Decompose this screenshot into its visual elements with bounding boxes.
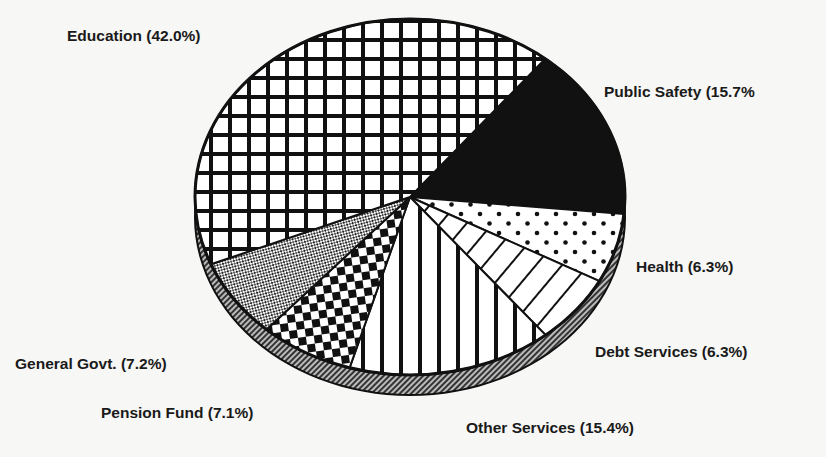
- label-pension-fund: Pension Fund (7.1%): [101, 404, 253, 422]
- label-general-govt: General Govt. (7.2%): [15, 355, 167, 373]
- pie-chart: [0, 0, 826, 457]
- label-public-safety: Public Safety (15.7%: [604, 83, 755, 101]
- label-other-services: Other Services (15.4%): [466, 419, 634, 437]
- label-education: Education (42.0%): [67, 27, 201, 45]
- label-debt-services: Debt Services (6.3%): [595, 343, 748, 361]
- label-health: Health (6.3%): [636, 258, 733, 276]
